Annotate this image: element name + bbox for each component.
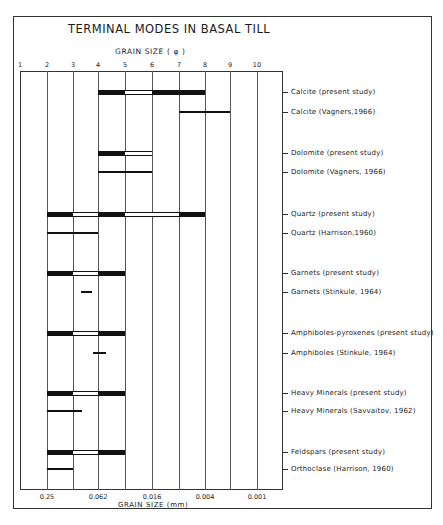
- row-tick: [283, 469, 288, 470]
- mode-bar-white: [73, 450, 98, 455]
- mode-bar-black: [47, 271, 73, 276]
- row-label: Calcite (present study): [291, 88, 376, 96]
- row-tick: [283, 333, 288, 334]
- mode-bar-black: [47, 331, 73, 336]
- mode-bar-black: [179, 212, 205, 217]
- grid-line: [205, 71, 206, 490]
- x-axis-label: GRAIN SIZE (mm): [118, 501, 188, 509]
- row-label: Feldspars (present study): [291, 448, 385, 456]
- mode-bar-black: [98, 391, 125, 396]
- mm-tick-label: 0.001: [248, 493, 267, 501]
- phi-tick-label: 6: [150, 61, 154, 69]
- mm-tick-label: 0.062: [89, 493, 108, 501]
- top-axis-label: GRAIN SIZE ( φ ): [115, 47, 185, 56]
- row-label: Amphiboles-pyroxenes (present study): [291, 329, 434, 337]
- range-line: [98, 171, 152, 173]
- range-line: [179, 111, 230, 113]
- phi-tick-label: 10: [253, 61, 261, 69]
- grid-line: [98, 71, 99, 490]
- chart-title: TERMINAL MODES IN BASAL TILL: [68, 22, 270, 36]
- phi-tick-label: 2: [45, 61, 49, 69]
- row-tick: [283, 292, 288, 293]
- mode-bar-black: [152, 90, 205, 95]
- grid-line: [152, 71, 153, 490]
- row-tick: [283, 273, 288, 274]
- grid-line: [257, 71, 258, 490]
- phi-tick-label: 8: [203, 61, 207, 69]
- phi-tick-label: 4: [96, 61, 100, 69]
- row-label: Dolomite (Vagners, 1966): [291, 168, 386, 176]
- phi-tick-label: 7: [177, 61, 181, 69]
- mode-bar-black: [47, 212, 73, 217]
- mode-bar-white: [73, 212, 98, 217]
- row-tick: [283, 214, 288, 215]
- mm-tick-label: 0.016: [143, 493, 162, 501]
- mode-bar-black: [98, 450, 125, 455]
- range-line: [81, 291, 92, 293]
- row-label: Garnets (present study): [291, 269, 379, 277]
- range-line: [93, 352, 106, 354]
- mm-tick-label: 0.004: [196, 493, 215, 501]
- mode-bar-black: [47, 391, 73, 396]
- row-tick: [283, 92, 288, 93]
- grid-line: [230, 71, 231, 490]
- range-line: [47, 468, 73, 470]
- range-line: [47, 232, 98, 234]
- mode-bar-white: [73, 391, 98, 396]
- mode-bar-black: [98, 271, 125, 276]
- mm-tick-label: 0.25: [40, 493, 54, 501]
- row-label: Amphiboles (Stinkule, 1964): [291, 349, 396, 357]
- phi-tick-label: 3: [71, 61, 75, 69]
- mode-bar-white: [73, 271, 98, 276]
- mode-bar-black: [98, 331, 125, 336]
- range-line: [47, 410, 82, 412]
- row-tick: [283, 353, 288, 354]
- phi-tick-label: 9: [228, 61, 232, 69]
- mode-bar-white: [125, 90, 152, 95]
- grid-line: [125, 71, 126, 490]
- phi-tick-label: 5: [123, 61, 127, 69]
- row-tick: [283, 452, 288, 453]
- row-label: Garnets (Stinkule, 1964): [291, 288, 381, 296]
- mode-bar-white: [125, 212, 179, 217]
- row-label: Orthoclase (Harrison, 1960): [291, 465, 394, 473]
- row-label: Heavy Minerals (present study): [291, 389, 407, 397]
- row-tick: [283, 411, 288, 412]
- row-tick: [283, 112, 288, 113]
- row-label: Calcite (Vagners,1966): [291, 108, 375, 116]
- row-label: Heavy Minerals (Savvaitov, 1962): [291, 407, 416, 415]
- phi-tick-label: 1: [18, 61, 22, 69]
- row-label: Quartz (Harrison,1960): [291, 229, 376, 237]
- row-tick: [283, 393, 288, 394]
- mode-bar-white: [125, 151, 152, 156]
- grid-line: [179, 71, 180, 490]
- row-tick: [283, 233, 288, 234]
- mode-bar-black: [98, 212, 125, 217]
- mode-bar-black: [98, 151, 125, 156]
- mode-bar-black: [98, 90, 125, 95]
- row-tick: [283, 153, 288, 154]
- grid-line: [47, 71, 48, 490]
- mode-bar-black: [47, 450, 73, 455]
- grid-line: [73, 71, 74, 490]
- row-tick: [283, 172, 288, 173]
- mode-bar-white: [73, 331, 98, 336]
- row-label: Dolomite (present study): [291, 149, 383, 157]
- row-label: Quartz (present study): [291, 210, 375, 218]
